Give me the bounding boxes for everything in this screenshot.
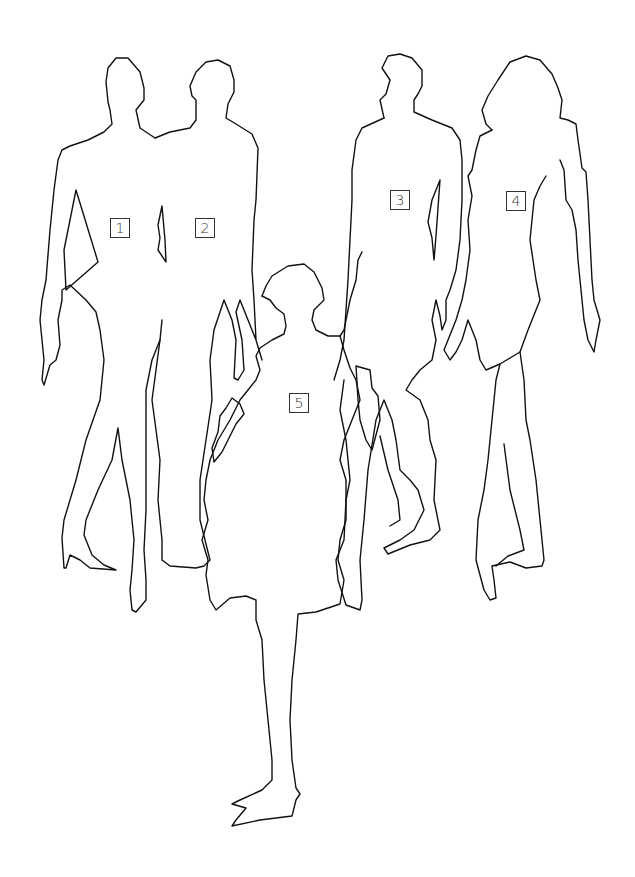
figure-4-label: 4 <box>506 191 526 211</box>
figure-4-number: 4 <box>512 194 521 208</box>
figure-2-label: 2 <box>195 218 215 238</box>
figure-5-label: 5 <box>289 393 309 413</box>
figure-2-outline <box>152 60 262 568</box>
figure-5-outline <box>202 252 400 826</box>
figure-3-outline <box>334 54 462 610</box>
figure-3-label: 3 <box>390 190 410 210</box>
figure-1-outline <box>40 58 162 612</box>
figure-1-number: 1 <box>116 221 125 235</box>
figure-2-number: 2 <box>201 221 210 235</box>
figure-3-number: 3 <box>396 193 405 207</box>
figure-5-number: 5 <box>295 396 304 410</box>
figure-1-label: 1 <box>110 218 130 238</box>
figure-4-outline <box>444 56 600 600</box>
figures-illustration <box>0 0 635 877</box>
